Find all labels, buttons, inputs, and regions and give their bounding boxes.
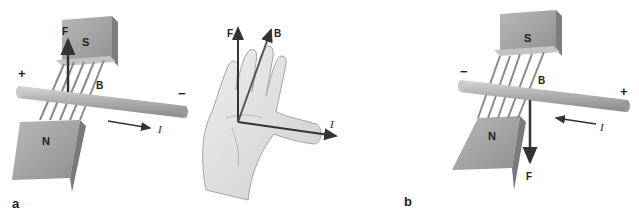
magnet-label-s: S: [82, 36, 89, 48]
magnet-label-n-b: N: [488, 130, 496, 142]
magnet-north-a: N: [12, 120, 86, 192]
force-label-a: F: [62, 26, 68, 37]
field-label-hand: B: [274, 28, 281, 39]
current-label-b: I: [599, 121, 605, 133]
panel-a: S N F B + − I a: [12, 16, 188, 211]
diagram-canvas: S N F B + − I a: [0, 0, 639, 213]
current-arrow-a: [108, 121, 150, 128]
terminal-left-a: +: [18, 66, 26, 81]
current-label-hand: I: [329, 118, 335, 130]
magnet-label-s-b: S: [524, 32, 531, 44]
right-hand-rule: F B I: [203, 28, 336, 200]
terminal-left-b: −: [460, 64, 468, 79]
panel-label-b: b: [404, 194, 412, 209]
magnet-label-n: N: [42, 135, 50, 147]
panel-b: S N F B − + I b: [404, 10, 630, 209]
magnet-south-b: S: [494, 10, 562, 56]
current-arrow-b: [556, 118, 596, 124]
field-label-b: B: [538, 75, 545, 86]
force-label-hand: F: [227, 28, 233, 39]
force-label-b: F: [526, 171, 532, 182]
panel-label-a: a: [12, 196, 20, 211]
hand-illustration: [203, 46, 321, 200]
terminal-right-b: +: [620, 84, 628, 99]
magnet-south-a: S: [56, 16, 118, 66]
field-label-a: B: [96, 80, 103, 91]
current-label-a: I: [157, 123, 163, 135]
magnet-north-b: N: [452, 116, 526, 190]
terminal-right-a: −: [178, 86, 186, 101]
